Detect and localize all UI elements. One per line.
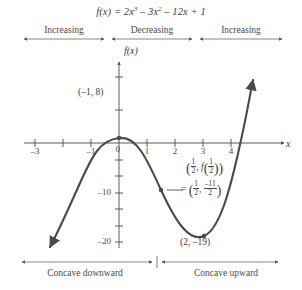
concavity-sign-chart: [22, 256, 278, 268]
x-tick-label-1: 1: [137, 146, 157, 156]
graph-canvas: [0, 0, 302, 290]
function-curve: [50, 80, 253, 247]
inflection-point: [159, 188, 163, 192]
local-minimum-point: [202, 234, 206, 238]
calculus-figure: f(x) = 2x3 – 3x2 – 12x + 1 Increasing De…: [0, 0, 302, 290]
y-tick-label--10: –10: [83, 187, 111, 197]
x-tick-label--3: –3: [25, 146, 45, 156]
y-axis: [115, 62, 123, 248]
x-tick-label-3: 3: [193, 146, 213, 156]
x-tick-label-4: 4: [221, 146, 241, 156]
local-maximum-point: [117, 136, 121, 140]
x-tick-label-2: 2: [165, 146, 185, 156]
x-tick-label--1: –1: [81, 146, 101, 156]
y-tick-label--20: –20: [83, 236, 111, 246]
x-tick-label-0: 0: [106, 144, 120, 154]
